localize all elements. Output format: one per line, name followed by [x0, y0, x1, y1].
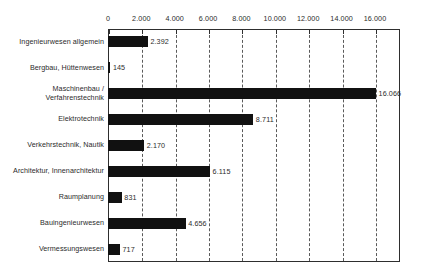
x-axis-tick-labels: 02.0004.0006.0008.00010.00012.00014.0001…: [0, 14, 422, 28]
category-label: Raumplanung: [59, 193, 104, 202]
bar-value-label: 717: [122, 245, 134, 254]
bar: [108, 218, 186, 229]
bar-row: Maschinenbau / Verfahrenstechnik16.066: [0, 81, 422, 107]
bar-row: Bauingenieurwesen4.656: [0, 210, 422, 236]
bar-rows: Ingenieurwesen allgemein2.392Bergbau, Hü…: [0, 29, 422, 262]
bar: [108, 192, 122, 203]
bar-value-label: 8.711: [256, 115, 274, 124]
x-tick-label: 14.000: [330, 14, 353, 23]
bar-value-label: 831: [124, 193, 136, 202]
category-label: Bauingenieurwesen: [40, 219, 104, 228]
bar-value-label: 2.170: [147, 141, 166, 150]
bar-value-label: 2.392: [150, 37, 169, 46]
category-label: Architektur, Innenarchitektur: [13, 167, 104, 176]
bar-row: Vermessungswesen717: [0, 236, 422, 262]
x-tick-label: 0: [106, 14, 110, 23]
category-label: Elektrotechnik: [58, 115, 104, 124]
bar-value-label: 6.115: [213, 167, 231, 176]
bar: [108, 166, 210, 177]
x-tick-label: 16.000: [364, 14, 387, 23]
bar-value-label: 4.656: [188, 219, 207, 228]
bar-row: Verkehrstechnik, Nautik2.170: [0, 133, 422, 159]
x-tick-label: 2.000: [132, 14, 151, 23]
bar-row: Raumplanung831: [0, 184, 422, 210]
bar-row: Ingenieurwesen allgemein2.392: [0, 29, 422, 55]
bar-value-label: 16.066: [379, 89, 402, 98]
category-label: Verkehrstechnik, Nautik: [27, 141, 104, 150]
bar: [108, 36, 148, 47]
bar: [108, 88, 376, 99]
bar: [108, 244, 120, 255]
bar: [108, 140, 144, 151]
x-tick-label: 12.000: [297, 14, 320, 23]
bar: [108, 114, 253, 125]
x-tick-label: 8.000: [232, 14, 251, 23]
category-label: Vermessungswesen: [39, 245, 104, 254]
category-label: Ingenieurwesen allgemein: [19, 38, 104, 47]
x-tick-label: 6.000: [199, 14, 218, 23]
category-label: Maschinenbau / Verfahrenstechnik: [46, 85, 104, 102]
bar: [108, 62, 110, 73]
bar-value-label: 145: [113, 63, 125, 72]
bar-row: Elektrotechnik8.711: [0, 107, 422, 133]
x-tick-label: 4.000: [165, 14, 184, 23]
category-label: Bergbau, Hüttenwesen: [30, 64, 104, 73]
bar-row: Architektur, Innenarchitektur6.115: [0, 158, 422, 184]
bar-chart: 02.0004.0006.0008.00010.00012.00014.0001…: [0, 0, 422, 275]
bar-row: Bergbau, Hüttenwesen145: [0, 55, 422, 81]
x-tick-label: 10.000: [264, 14, 287, 23]
